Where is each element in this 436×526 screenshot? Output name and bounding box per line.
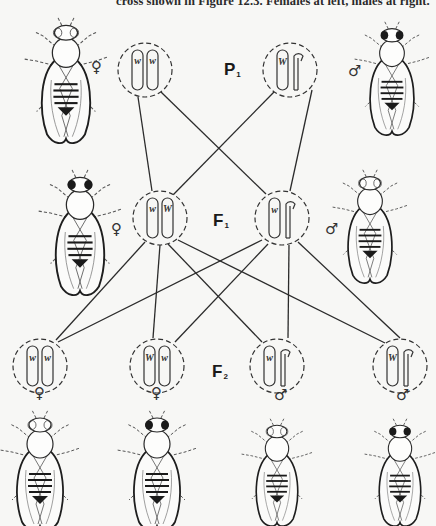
f1-letter: F [213,211,223,230]
fly-f1-female-red-eye [38,169,122,295]
male-symbol-f2-3: ♂ [274,388,287,403]
svg-text:W: W [145,352,155,363]
cross-lines-and-chromosomes: w w W w W w w w W [0,0,436,526]
svg-text:W: W [163,203,173,214]
fly-f2-male-white-eye [241,418,313,526]
f2-genotype-w-male: w [250,339,304,393]
female-symbol-f2-1: ♀ [34,386,45,401]
p1-subscript: 1 [236,70,240,79]
f2-letter: F [212,362,222,381]
fly-f2-male-red-eye [364,418,436,526]
svg-text:w: w [29,352,36,363]
generation-label-f2: F2 [212,362,228,382]
svg-text:W: W [278,56,288,67]
svg-text:w: w [149,55,156,66]
p1-male-genotype: W [263,43,317,97]
genetics-cross-diagram: cross shown in Figure 12.3. Females at l… [0,0,436,526]
male-symbol-f2-4: ♂ [396,388,409,403]
p1-female-genotype: w w [118,43,172,97]
f2-subscript: 2 [223,372,227,381]
fly-f2-female-red-eye [117,410,197,526]
svg-text:W: W [388,352,398,363]
f1-female-genotype: w W [133,191,187,245]
female-symbol-p1: ♀ [91,60,102,75]
fly-p1-male-red-eye [354,21,430,135]
svg-text:w: w [271,204,278,215]
svg-text:w: w [161,352,168,363]
female-symbol-f1: ♀ [111,222,122,237]
svg-text:w: w [134,55,141,66]
f1-subscript: 1 [224,221,228,230]
male-symbol-f1: ♂ [325,222,338,237]
svg-text:w: w [44,352,51,363]
p1-letter: P [224,60,235,79]
male-symbol-p1: ♂ [348,64,361,79]
f1-male-genotype: w [255,191,309,245]
fly-f2-female-white-eye [0,410,80,526]
f2-genotype-W-male: W [373,339,427,393]
svg-text:w: w [149,203,156,214]
svg-text:w: w [266,352,273,363]
generation-label-p1: P1 [224,60,241,80]
female-symbol-f2-2: ♀ [151,386,162,401]
fly-p1-female-white-eye [24,17,108,143]
fly-f1-male-white-eye [332,169,408,283]
generation-label-f1: F1 [213,211,229,231]
